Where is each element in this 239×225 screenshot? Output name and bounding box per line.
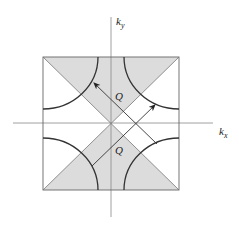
ky-label: ky [116,15,125,30]
kx-label: kx [219,125,228,140]
fermi-surface-diagram: Q Q ky kx [0,0,239,225]
q-label-upper: Q [115,90,123,102]
q-label-lower: Q [115,144,123,156]
